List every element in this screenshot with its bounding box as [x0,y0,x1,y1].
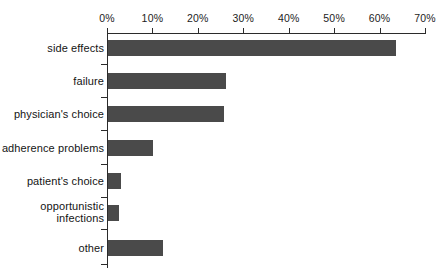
x-tick-10pct [152,28,153,34]
y-tick-patients-choice [101,197,107,198]
x-tick-50pct [334,28,335,34]
x-tick-label-30pct: 30% [232,12,254,24]
category-label-failure: failure [73,75,104,87]
y-tick-adherence-problems [101,164,107,165]
bar-opportunistic-infections [108,205,119,221]
bar-adherence-problems [108,140,153,156]
x-tick-20pct [198,28,199,34]
y-tick-failure [101,97,107,98]
horizontal-bar-chart: 0%10%20%30%40%50%60%70% side effectsfail… [0,0,447,276]
x-tick-0pct [107,28,108,34]
x-tick-label-40pct: 40% [278,12,300,24]
x-tick-label-70pct: 70% [414,12,436,24]
category-label-opportunistic-infections: opportunistic infections [40,200,104,224]
x-tick-label-20pct: 20% [187,12,209,24]
x-tick-70pct [425,28,426,34]
category-label-side-effects: side effects [47,42,104,54]
bar-patients-choice [108,173,121,189]
bar-physicians-choice [108,106,224,122]
category-label-physicians-choice: physician's choice [14,108,104,120]
x-tick-30pct [243,28,244,34]
y-tick-side-effects [101,64,107,65]
bar-failure [108,73,226,89]
x-tick-label-0pct: 0% [99,12,115,24]
x-tick-label-50pct: 50% [323,12,345,24]
category-label-adherence-problems: adherence problems [2,142,104,154]
y-tick-opportunistic-infections [101,229,107,230]
category-label-other: other [78,242,104,254]
category-label-patients-choice: patient's choice [27,175,104,187]
y-tick-physicians-choice [101,130,107,131]
bar-side-effects [108,40,396,56]
x-tick-40pct [289,28,290,34]
y-tick-other [101,264,107,265]
bar-other [108,240,163,256]
x-tick-label-10pct: 10% [142,12,164,24]
x-tick-label-60pct: 60% [369,12,391,24]
x-axis-line [107,33,425,34]
x-tick-60pct [380,28,381,34]
